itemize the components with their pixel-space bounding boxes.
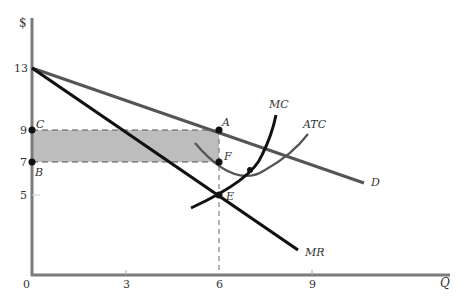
label-mr: MR (304, 246, 325, 259)
x-tick-label-3: 3 (123, 278, 130, 291)
label-c: C (36, 118, 45, 131)
label-b: B (34, 166, 43, 179)
point-b (29, 159, 36, 166)
y-tick-label-9: 9 (20, 124, 27, 137)
monopoly-profit-chart: $ Q 0 3 6 9 13 9 7 5 A F E C B MC ATC D … (0, 0, 468, 305)
x-tick-label-9: 9 (309, 278, 316, 291)
x-tick-label-6: 6 (216, 278, 223, 291)
y-axis-label: $ (19, 16, 27, 30)
label-mc: MC (268, 98, 289, 111)
y-tick-label-5: 5 (20, 189, 27, 202)
x-axis-label: Q (440, 276, 450, 290)
label-d: D (370, 176, 380, 189)
label-a: A (221, 116, 230, 129)
y-tick-label-13: 13 (14, 62, 28, 75)
profit-area (32, 130, 219, 162)
y-tick-label-7: 7 (20, 156, 27, 169)
atc-minimum-point (247, 167, 253, 173)
label-f: F (223, 150, 232, 163)
point-c (29, 127, 36, 134)
point-f (216, 159, 223, 166)
label-atc: ATC (302, 118, 327, 131)
label-e: E (225, 190, 234, 203)
origin-label: 0 (23, 278, 30, 291)
point-e (216, 192, 223, 199)
